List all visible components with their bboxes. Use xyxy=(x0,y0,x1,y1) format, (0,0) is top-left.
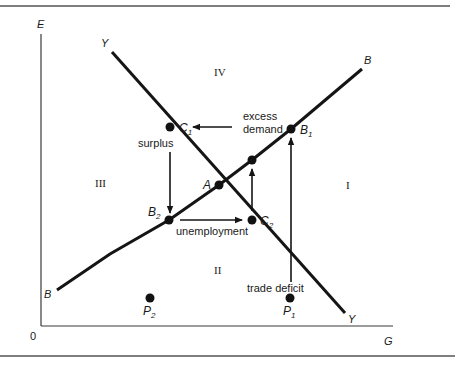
svg-text:B1: B1 xyxy=(300,123,312,139)
point-c1-sub: 1 xyxy=(188,128,192,137)
yy-curve: Y Y xyxy=(101,37,356,325)
bb-label-left: B xyxy=(44,288,51,300)
svg-text:C2: C2 xyxy=(260,214,274,230)
point-c2-sub: 2 xyxy=(268,221,274,230)
point-p2-sub: 2 xyxy=(150,311,156,320)
y-axis-label: E xyxy=(37,18,45,30)
point-p1-label: P xyxy=(283,304,291,318)
point-b1-sub: 1 xyxy=(308,130,312,139)
bb-label-right: B xyxy=(364,54,371,66)
svg-text:B2: B2 xyxy=(148,205,161,221)
point-c1: C1 xyxy=(166,121,193,137)
svg-text:C1: C1 xyxy=(179,121,192,137)
point-p2: P2 xyxy=(143,294,156,321)
point-c1-label: C xyxy=(179,121,188,135)
point-mid xyxy=(248,156,257,165)
x-axis-label: G xyxy=(384,335,393,347)
yy-label-bottom: Y xyxy=(348,313,356,325)
region-ii-label: II xyxy=(214,264,222,276)
bb-curve: B B xyxy=(44,54,371,300)
economic-diagram: E 0 G Y Y B B IV III I II excess demand … xyxy=(0,0,457,367)
point-p1-sub: 1 xyxy=(291,311,295,320)
unemployment-label: unemployment xyxy=(176,225,248,237)
svg-text:P2: P2 xyxy=(143,304,156,320)
point-b2-label: B xyxy=(148,205,156,219)
surplus-label: surplus xyxy=(138,137,174,149)
region-i-label: I xyxy=(346,179,350,191)
point-b2-sub: 2 xyxy=(155,212,161,221)
svg-text:P1: P1 xyxy=(283,304,295,320)
excess-label-line1: excess xyxy=(243,110,278,122)
point-p2-label: P xyxy=(143,304,151,318)
point-a-label: A xyxy=(202,178,211,192)
point-p1: P1 xyxy=(283,294,295,321)
yy-label-top: Y xyxy=(101,37,109,49)
trade-deficit-label: trade deficit xyxy=(247,282,304,294)
region-iv-label: IV xyxy=(214,66,226,78)
point-c2-label: C xyxy=(260,214,269,228)
point-c2: C2 xyxy=(248,214,274,230)
point-b1: B1 xyxy=(287,123,313,139)
excess-label-line2: demand xyxy=(243,123,283,135)
point-b1-label: B xyxy=(300,123,308,137)
origin-label: 0 xyxy=(30,330,36,342)
yy-line xyxy=(112,52,345,313)
region-iii-label: III xyxy=(95,177,106,189)
axes: E 0 G xyxy=(30,18,393,347)
